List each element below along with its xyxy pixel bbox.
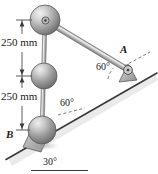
angle-label-a: 60° [96, 62, 110, 72]
mechanics-figure: 250 mm 250 mm 60° 60° 30° A B [0, 0, 158, 174]
sphere-top [30, 5, 60, 35]
arrow-up-icon [20, 70, 25, 76]
incline-angle-label: 30° [43, 157, 57, 167]
sphere-bottom [28, 116, 59, 150]
arrow-down-icon [20, 77, 25, 83]
point-label-a: A [120, 44, 127, 55]
arrow-up-icon [20, 124, 25, 130]
pin-center-dot [44, 19, 46, 21]
angle-label-b: 60° [60, 98, 74, 108]
incline-surface [6, 73, 158, 166]
dimension-label-top: 250 mm [1, 37, 37, 48]
pin-center-dot-a [127, 69, 130, 72]
point-label-b: B [6, 129, 13, 140]
arrow-down-icon [20, 21, 25, 27]
sphere-middle-body [31, 63, 57, 89]
incline-shading [8, 74, 158, 166]
figure-canvas [0, 0, 158, 174]
dashed-reference-b [58, 108, 85, 115]
angle-marker-b [58, 108, 85, 115]
sphere-middle [31, 63, 57, 89]
sphere-bottom-body [28, 116, 56, 144]
dimension-label-bottom: 250 mm [1, 91, 37, 102]
